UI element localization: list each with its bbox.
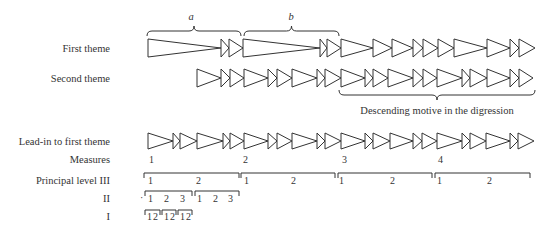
motive-triangle xyxy=(173,133,180,149)
beat-number: 2 xyxy=(291,175,296,186)
second-theme-label: Second theme xyxy=(51,73,111,84)
motive-triangle xyxy=(470,69,487,87)
brace-b-label: b xyxy=(288,11,293,22)
beat-number: 1 xyxy=(180,211,185,222)
motive-triangle xyxy=(148,39,221,57)
motive-triangle xyxy=(230,69,244,87)
motive-triangle xyxy=(148,133,173,149)
digression-brace: Descending motive in the digression xyxy=(339,90,535,116)
beat-number: 1 xyxy=(148,175,153,186)
motive-triangle xyxy=(268,69,277,87)
motive-triangle xyxy=(413,69,423,87)
motive-triangle xyxy=(325,69,341,87)
beat-number: 2 xyxy=(213,193,218,204)
motive-triangle xyxy=(470,133,486,149)
motive-triangle xyxy=(413,133,422,149)
motive-triangle xyxy=(454,39,487,57)
motive-triangle xyxy=(365,133,373,149)
motive-triangle xyxy=(244,69,268,87)
motive-triangle xyxy=(341,39,373,57)
second-theme-motive-row xyxy=(197,69,533,87)
motive-triangle xyxy=(510,39,519,57)
motive-triangle xyxy=(413,39,423,57)
motive-triangle xyxy=(388,69,413,87)
motive-triangle xyxy=(180,133,197,149)
level-iii-brackets: 12121212 xyxy=(144,173,530,186)
motive-triangle xyxy=(230,133,244,149)
motive-triangle xyxy=(243,39,320,57)
brace-a-label: a xyxy=(188,11,193,22)
motive-triangle xyxy=(510,69,519,87)
motive-triangle xyxy=(325,133,341,149)
measure-numbers: 1234 xyxy=(149,154,443,165)
level-ii-brackets: · 123123 xyxy=(140,191,239,204)
beat-number: 2 xyxy=(153,211,158,222)
measures-label: Measures xyxy=(70,154,110,165)
beat-number: 2 xyxy=(164,193,169,204)
brace-b: b xyxy=(244,11,339,36)
motive-triangle xyxy=(373,39,392,57)
level-ii-label: II xyxy=(103,193,110,204)
grouping-bracket xyxy=(435,173,530,178)
grouping-bracket xyxy=(241,173,335,178)
motive-triangle xyxy=(341,133,365,149)
motive-triangle xyxy=(462,69,470,87)
motive-triangle xyxy=(292,69,317,87)
metric-structure-diagram: a b First theme Second theme Lead-in to … xyxy=(0,0,551,236)
motive-triangle xyxy=(277,133,292,149)
motive-triangle xyxy=(221,69,230,87)
beat-number: 2 xyxy=(487,175,492,186)
beat-number: 1 xyxy=(147,211,152,222)
grouping-bracket xyxy=(144,173,239,178)
motive-triangle xyxy=(462,133,470,149)
motive-triangle xyxy=(518,133,534,149)
motive-triangle xyxy=(438,39,454,57)
motive-triangle xyxy=(390,133,413,149)
measure-number: 1 xyxy=(149,154,154,165)
motive-triangle xyxy=(223,133,230,149)
motive-triangle xyxy=(320,39,327,57)
motive-triangle xyxy=(221,39,229,57)
beat-number: 3 xyxy=(228,193,233,204)
lead-in-motive-row xyxy=(148,133,534,149)
beat-number: 1 xyxy=(164,211,169,222)
beat-number: 1 xyxy=(197,193,202,204)
motive-triangle xyxy=(327,39,341,57)
digression-label: Descending motive in the digression xyxy=(360,105,514,116)
beat-number: 2 xyxy=(170,211,175,222)
motive-triangle xyxy=(373,69,388,87)
motive-triangle xyxy=(229,39,243,57)
motive-triangle xyxy=(510,133,518,149)
motive-triangle xyxy=(244,133,268,149)
motive-triangle xyxy=(437,133,462,149)
motive-triangle xyxy=(317,133,325,149)
motive-triangle xyxy=(341,69,365,87)
motive-triangle xyxy=(277,69,292,87)
motive-triangle xyxy=(268,133,277,149)
motive-triangle xyxy=(519,69,533,87)
motive-triangle xyxy=(487,39,510,57)
motive-triangle xyxy=(437,69,462,87)
level-ii-dot: · xyxy=(140,192,143,203)
motive-triangle xyxy=(519,39,535,57)
lead-in-label: Lead-in to first theme xyxy=(19,136,111,147)
motive-triangle xyxy=(197,69,221,87)
motive-triangle xyxy=(317,69,325,87)
beat-number: 1 xyxy=(148,193,153,204)
beat-number: 2 xyxy=(196,175,201,186)
motive-triangle xyxy=(373,133,390,149)
measure-number: 4 xyxy=(438,154,443,165)
motive-triangle xyxy=(423,39,438,57)
measure-number: 2 xyxy=(243,154,248,165)
measure-number: 3 xyxy=(342,154,347,165)
motive-triangle xyxy=(292,133,317,149)
level-i-label: I xyxy=(107,211,111,222)
level-iii-label: Principal level III xyxy=(36,175,111,186)
beat-number: 1 xyxy=(244,175,249,186)
motive-triangle xyxy=(423,69,437,87)
beat-number: 2 xyxy=(186,211,191,222)
grouping-bracket xyxy=(338,173,432,178)
motive-triangle xyxy=(487,69,510,87)
brace-a: a xyxy=(147,11,241,36)
motive-triangle xyxy=(486,133,510,149)
